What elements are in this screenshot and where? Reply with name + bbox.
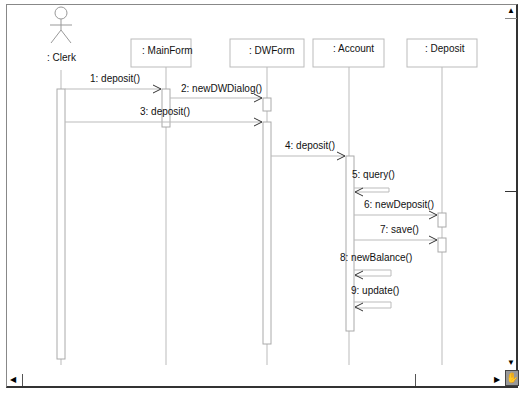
activation-dwform-2 bbox=[263, 122, 271, 344]
svg-text:1: deposit(): 1: deposit() bbox=[90, 73, 140, 84]
message-5[interactable]: 5: query() bbox=[352, 169, 395, 196]
svg-text:2: newDWDialog(): 2: newDWDialog() bbox=[181, 83, 262, 94]
sequence-diagram: : Clerk : MainForm : DWForm : Account : … bbox=[0, 0, 524, 393]
activation-dwform-1 bbox=[263, 98, 271, 111]
lifeline-dwform[interactable]: : DWForm bbox=[230, 39, 304, 67]
activation-deposit-1 bbox=[438, 213, 446, 227]
message-7[interactable]: 7: save() bbox=[354, 224, 437, 244]
lifeline-label: : MainForm bbox=[142, 45, 193, 56]
scroll-right-icon[interactable]: ▶ bbox=[491, 374, 503, 386]
lifeline-deposit[interactable]: : Deposit bbox=[407, 39, 477, 67]
activation-clerk bbox=[57, 89, 65, 359]
svg-text:7: save(): 7: save() bbox=[380, 224, 419, 235]
activation-account bbox=[346, 156, 354, 331]
scroll-left-icon[interactable]: ◀ bbox=[7, 374, 19, 386]
horizontal-scroll-thumb[interactable] bbox=[415, 374, 416, 386]
scroll-up-divider bbox=[505, 18, 517, 19]
message-9[interactable]: 9: update() bbox=[351, 285, 399, 311]
lifeline-mainform[interactable]: : MainForm bbox=[131, 39, 193, 67]
vertical-scroll-thumb[interactable] bbox=[505, 191, 517, 192]
svg-text:3: deposit(): 3: deposit() bbox=[140, 106, 190, 117]
svg-text:9: update(): 9: update() bbox=[351, 285, 399, 296]
lifeline-label: : Account bbox=[333, 43, 374, 54]
pan-hand-icon[interactable]: ✋ bbox=[505, 370, 519, 386]
horizontal-scrollbar[interactable]: ◀ ▶ bbox=[7, 374, 503, 386]
actor-label: : Clerk bbox=[47, 52, 77, 63]
message-1[interactable]: 1: deposit() bbox=[65, 73, 161, 93]
actor-clerk[interactable]: : Clerk bbox=[47, 7, 77, 63]
actor-head-icon bbox=[55, 7, 67, 19]
lifeline-label: : Deposit bbox=[425, 43, 465, 54]
svg-text:5: query(): 5: query() bbox=[352, 169, 395, 180]
message-2[interactable]: 2: newDWDialog() bbox=[170, 83, 262, 102]
vertical-scrollbar[interactable]: ▲ ▼ bbox=[505, 5, 517, 370]
scroll-up-icon[interactable]: ▲ bbox=[505, 5, 517, 17]
svg-text:4: deposit(): 4: deposit() bbox=[285, 140, 335, 151]
message-6[interactable]: 6: newDeposit() bbox=[354, 199, 437, 219]
svg-text:6: newDeposit(): 6: newDeposit() bbox=[364, 199, 434, 210]
lifeline-account[interactable]: : Account bbox=[313, 39, 384, 67]
svg-text:8: newBalance(): 8: newBalance() bbox=[340, 252, 412, 263]
activation-deposit-2 bbox=[438, 238, 446, 252]
message-4[interactable]: 4: deposit() bbox=[271, 140, 345, 160]
scroll-down-icon[interactable]: ▼ bbox=[505, 357, 517, 369]
scroll-left-divider bbox=[22, 374, 23, 386]
lifeline-label: : DWForm bbox=[249, 45, 295, 56]
